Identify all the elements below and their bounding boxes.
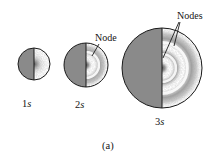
orbital-1s — [18, 47, 52, 82]
orbital-label-3s-subshell: s — [160, 116, 164, 127]
orbital-diagram-canvas — [0, 0, 218, 163]
orbital-figure: 1s 2s 3s Node Nodes (a) — [0, 0, 218, 163]
callout-label-nodes: Nodes — [177, 11, 203, 21]
orbital-label-3s: 3s — [155, 117, 164, 128]
orbital-label-2s: 2s — [75, 100, 84, 111]
callout-label-node: Node — [95, 33, 117, 43]
orbital-label-1s: 1s — [22, 99, 31, 110]
panel-label: (a) — [102, 141, 114, 152]
orbital-2s — [64, 42, 110, 89]
orbital-label-2s-subshell: s — [80, 99, 84, 110]
orbital-3s — [122, 22, 204, 110]
orbital-label-1s-subshell: s — [27, 98, 31, 109]
